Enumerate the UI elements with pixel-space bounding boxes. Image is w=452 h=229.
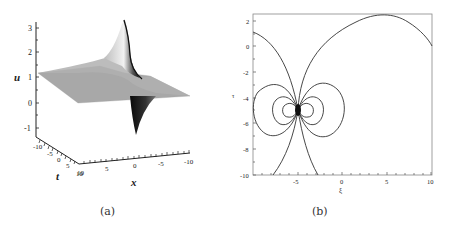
u-tick-neg1: -1 bbox=[24, 124, 31, 133]
t-tick-neg10: -10 bbox=[33, 143, 43, 151]
x-tick-5: 5 bbox=[105, 165, 109, 173]
y-axis-label: τ bbox=[232, 93, 235, 99]
t-tick-neg5: -5 bbox=[47, 150, 53, 158]
x-axis-label: ξ bbox=[339, 186, 342, 194]
x-tick-neg5: -5 bbox=[158, 160, 164, 168]
x-axis-label: x bbox=[130, 176, 137, 188]
surface bbox=[38, 20, 190, 135]
u-axis: 3 2 1 0 -1 u bbox=[14, 22, 39, 137]
panel-a-surface-plot: 3 2 1 0 -1 u -10 -5 0 5 bbox=[0, 0, 226, 229]
contour-plot-svg: 2 0 -2 -4 -6 -8 -10 τ bbox=[226, 0, 452, 229]
contour-lines bbox=[253, 15, 432, 175]
y-tick-0: 0 bbox=[246, 43, 249, 50]
plot-frame bbox=[253, 14, 432, 175]
u-axis-label: u bbox=[14, 71, 20, 83]
u-tick-3: 3 bbox=[28, 24, 32, 33]
t-tick-0: 0 bbox=[57, 156, 61, 164]
x-tick-10: 10 bbox=[77, 169, 85, 177]
u-tick-1: 1 bbox=[28, 73, 32, 82]
saddle-point-marker bbox=[295, 104, 301, 116]
y-axis: 2 0 -2 -4 -6 -8 -10 τ bbox=[232, 18, 256, 179]
y-tick-neg6: -6 bbox=[243, 120, 249, 127]
y-tick-neg4: -4 bbox=[243, 95, 249, 102]
panel-b-contour-plot: 2 0 -2 -4 -6 -8 -10 τ bbox=[226, 0, 452, 229]
x-tick-10: 10 bbox=[427, 178, 434, 185]
x-tick-neg10: -10 bbox=[184, 158, 194, 166]
y-tick-2: 2 bbox=[246, 18, 249, 25]
caption-b: (b) bbox=[312, 205, 328, 218]
x-axis: 10 5 0 -5 -10 x bbox=[77, 150, 194, 188]
t-axis: -10 -5 0 5 10 t bbox=[33, 137, 84, 182]
t-axis-label: t bbox=[56, 170, 60, 182]
x-tick-neg5: -5 bbox=[293, 178, 298, 185]
u-tick-0: 0 bbox=[28, 99, 32, 108]
x-tick-5: 5 bbox=[385, 178, 388, 185]
y-tick-neg2: -2 bbox=[243, 69, 248, 76]
caption-a: (a) bbox=[100, 205, 115, 218]
x-tick-0: 0 bbox=[133, 162, 137, 170]
x-tick-0: 0 bbox=[340, 178, 343, 185]
y-tick-neg10: -10 bbox=[240, 172, 249, 179]
u-tick-2: 2 bbox=[28, 48, 32, 57]
t-tick-5: 5 bbox=[66, 162, 70, 170]
y-tick-neg8: -8 bbox=[243, 146, 248, 153]
surface-plot-svg: 3 2 1 0 -1 u -10 -5 0 5 bbox=[0, 0, 226, 229]
